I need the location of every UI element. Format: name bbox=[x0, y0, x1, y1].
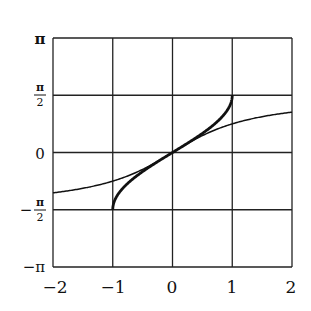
y-tick-neg-half-pi: − π 2 bbox=[20, 196, 46, 224]
function-plot: π π 2 0 − π 2 −π −2 −1 0 1 2 bbox=[0, 0, 311, 311]
y-tick-neg-half-pi-sign: − bbox=[20, 201, 33, 219]
x-tick-neg1: −1 bbox=[100, 277, 125, 297]
y-tick-zero: 0 bbox=[35, 145, 45, 163]
x-tick-2: 2 bbox=[286, 277, 297, 297]
y-tick-neg-pi: −π bbox=[23, 258, 46, 276]
x-tick-0: 0 bbox=[167, 277, 178, 297]
y-tick-neg-half-pi-denominator: 2 bbox=[37, 211, 44, 224]
y-tick-half-pi-denominator: 2 bbox=[37, 96, 44, 109]
y-tick-pi: π bbox=[35, 30, 46, 48]
x-tick-1: 1 bbox=[227, 277, 238, 297]
y-tick-half-pi: π 2 bbox=[34, 81, 46, 109]
y-tick-neg-half-pi-numerator: π bbox=[36, 196, 44, 209]
y-tick-half-pi-numerator: π bbox=[36, 81, 44, 94]
x-tick-neg2: −2 bbox=[42, 277, 67, 297]
